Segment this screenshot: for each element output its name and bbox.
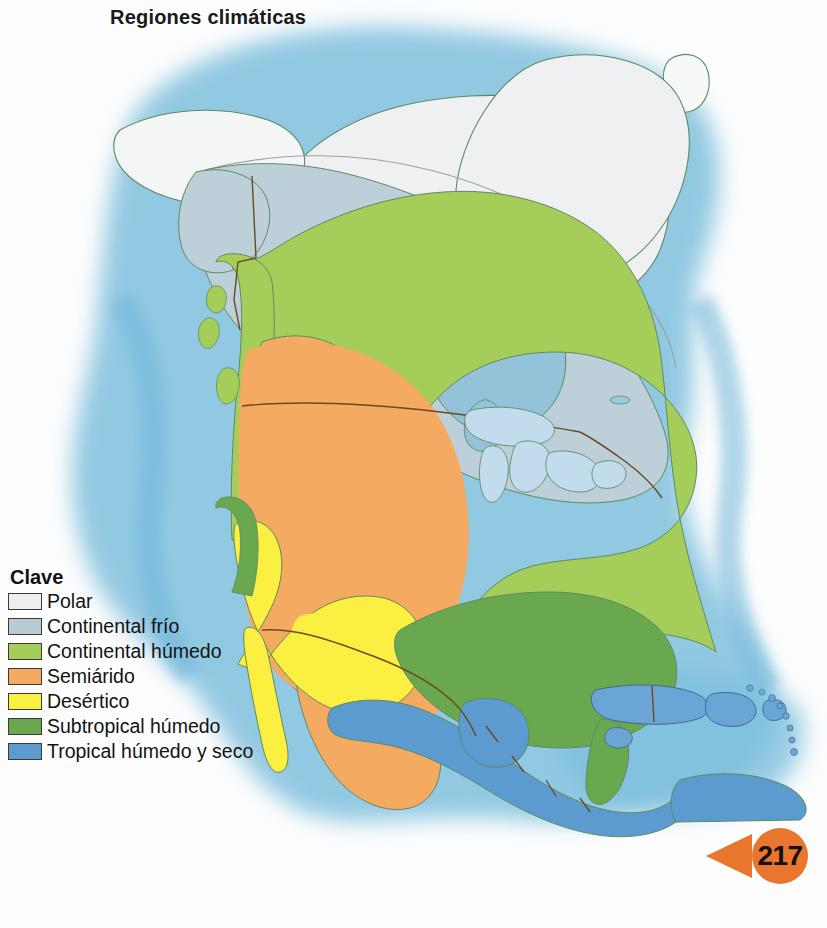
page-number-badge: 217 — [752, 828, 808, 884]
legend-swatch-subtropical-humedo — [8, 718, 42, 735]
legend-label-desertico: Desértico — [47, 691, 129, 712]
legend-label-tropical-humedo-seco: Tropical húmedo y seco — [47, 741, 253, 762]
legend-item-subtropical-humedo[interactable]: Subtropical húmedo — [8, 714, 253, 739]
legend-swatch-continental-frio — [8, 618, 42, 635]
legend-item-desertico[interactable]: Desértico — [8, 689, 253, 714]
legend-item-continental-humedo[interactable]: Continental húmedo — [8, 639, 253, 664]
legend-item-continental-frio[interactable]: Continental frío — [8, 614, 253, 639]
legend-label-continental-humedo: Continental húmedo — [47, 641, 222, 662]
legend-title: Clave — [10, 566, 253, 588]
legend-item-polar[interactable]: Polar — [8, 589, 253, 614]
legend-item-semiarido[interactable]: Semiárido — [8, 664, 253, 689]
legend-label-polar: Polar — [47, 591, 93, 612]
legend-swatch-polar — [8, 593, 42, 610]
legend-swatch-continental-humedo — [8, 643, 42, 660]
climate-regions-map — [0, 0, 827, 928]
legend-swatch-tropical-humedo-seco — [8, 743, 42, 760]
map-page: Regiones climáticas — [0, 0, 827, 928]
legend-swatch-semiarido — [8, 668, 42, 685]
page-title: Regiones climáticas — [110, 6, 306, 29]
legend-item-tropical-humedo-seco[interactable]: Tropical húmedo y seco — [8, 739, 253, 764]
page-back-arrow-icon[interactable] — [706, 834, 752, 878]
legend-label-subtropical-humedo: Subtropical húmedo — [47, 716, 220, 737]
legend-label-semiarido: Semiárido — [47, 666, 135, 687]
legend-label-continental-frio: Continental frío — [47, 616, 179, 637]
page-number: 217 — [757, 840, 802, 872]
map-legend: Clave Polar Continental frío Continental… — [8, 566, 253, 764]
legend-swatch-desertico — [8, 693, 42, 710]
